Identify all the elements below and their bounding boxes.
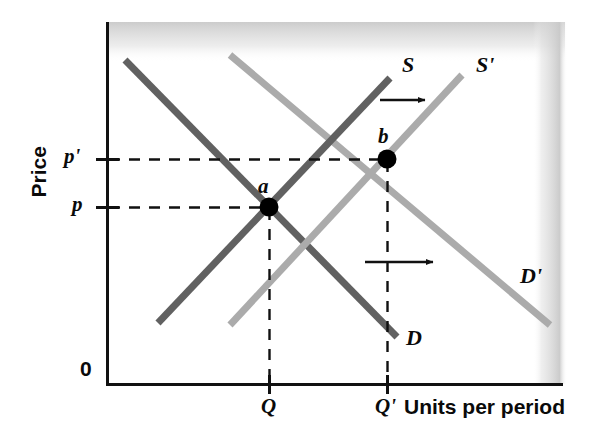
x-axis-label: Units per period xyxy=(404,396,565,417)
supply-demand-figure: Price 0 p' p a b S S' D D' Q Q' Units pe… xyxy=(0,0,597,447)
curve-label-demand-initial: D xyxy=(406,327,422,349)
y-axis-label: Price xyxy=(28,154,49,198)
point-a-marker xyxy=(260,198,279,217)
top-shadow-band xyxy=(107,22,565,62)
point-a-label: a xyxy=(258,176,269,197)
y-tick-label-price: p xyxy=(72,194,83,215)
x-tick-label-quantity: Q xyxy=(261,396,276,417)
origin-label: 0 xyxy=(80,358,92,379)
point-b-marker xyxy=(378,150,397,169)
curve-label-supply-initial: S xyxy=(402,54,414,76)
curve-label-demand-shifted: D' xyxy=(520,265,542,287)
y-tick-label-price-prime: p' xyxy=(64,146,80,167)
x-tick-label-quantity-prime: Q' xyxy=(375,396,396,417)
curve-label-supply-shifted: S' xyxy=(476,54,494,76)
curve-demand-shifted xyxy=(230,55,550,325)
right-shadow-band xyxy=(533,22,567,384)
point-b-label: b xyxy=(378,126,389,147)
